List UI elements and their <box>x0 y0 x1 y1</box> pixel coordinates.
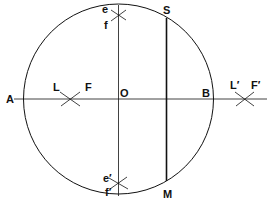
label-e: e <box>102 3 108 15</box>
label-S: S <box>163 4 170 16</box>
geometry-diagram: A B O S M L F L′ F′ e f e′ f′ <box>0 0 267 201</box>
label-f-prime: f′ <box>105 186 112 198</box>
label-B: B <box>202 87 210 99</box>
label-O: O <box>120 87 129 99</box>
label-M: M <box>163 188 172 200</box>
label-L: L <box>53 81 60 93</box>
label-F: F <box>85 81 92 93</box>
label-A: A <box>6 93 14 105</box>
label-F-prime: F′ <box>251 79 261 91</box>
label-f: f <box>104 19 108 31</box>
label-e-prime: e′ <box>103 172 112 184</box>
label-L-prime: L′ <box>230 79 240 91</box>
